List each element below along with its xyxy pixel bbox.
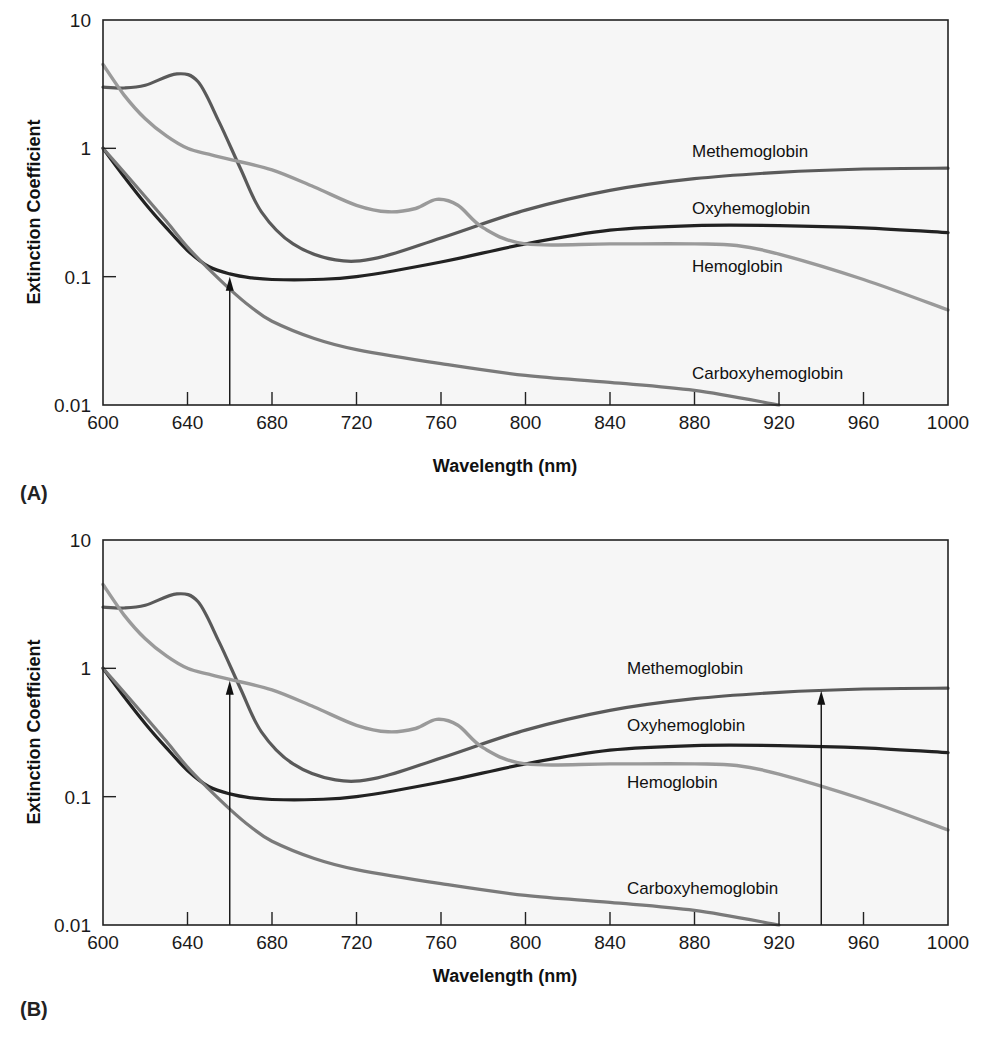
x-tick-label: 760 — [425, 932, 457, 953]
x-axis-title: Wavelength (nm) — [433, 966, 577, 986]
y-axis-title: Extinction Coefficient — [24, 639, 44, 824]
label-hemoglobin: Hemoglobin — [627, 773, 718, 792]
x-tick-label: 720 — [341, 932, 373, 953]
y-tick-label: 10 — [70, 530, 91, 551]
chart-a: 60064068072076080084088092096010000.010.… — [0, 0, 987, 520]
x-tick-label: 800 — [510, 932, 542, 953]
x-tick-label: 840 — [594, 932, 626, 953]
label-oxyhemoglobin: Oxyhemoglobin — [692, 199, 810, 218]
x-tick-label: 760 — [425, 412, 457, 433]
x-tick-label: 1000 — [927, 932, 969, 953]
y-tick-label: 0.01 — [54, 915, 91, 936]
x-tick-label: 880 — [679, 932, 711, 953]
label-hemoglobin: Hemoglobin — [692, 257, 783, 276]
y-tick-label: 0.1 — [65, 787, 91, 808]
label-methemoglobin: Methemoglobin — [627, 659, 743, 678]
x-tick-label: 880 — [679, 412, 711, 433]
x-tick-label: 720 — [341, 412, 373, 433]
x-tick-label: 960 — [848, 412, 880, 433]
label-carboxyhemoglobin: Carboxyhemoglobin — [692, 364, 843, 383]
x-tick-label: 640 — [172, 412, 204, 433]
x-tick-label: 600 — [87, 412, 119, 433]
x-tick-label: 680 — [256, 412, 288, 433]
chart-b: 60064068072076080084088092096010000.010.… — [0, 520, 987, 1045]
x-tick-label: 640 — [172, 932, 204, 953]
y-tick-label: 0.01 — [54, 395, 91, 416]
x-axis-title: Wavelength (nm) — [433, 456, 577, 476]
y-tick-label: 1 — [80, 138, 91, 159]
label-methemoglobin: Methemoglobin — [692, 142, 808, 161]
x-tick-label: 920 — [763, 412, 795, 433]
x-tick-label: 1000 — [927, 412, 969, 433]
x-tick-label: 600 — [87, 932, 119, 953]
panel-b: 60064068072076080084088092096010000.010.… — [0, 520, 987, 1045]
label-oxyhemoglobin: Oxyhemoglobin — [627, 716, 745, 735]
x-tick-label: 960 — [848, 932, 880, 953]
y-axis-title: Extinction Coefficient — [24, 119, 44, 304]
panel-a: 60064068072076080084088092096010000.010.… — [0, 0, 987, 520]
y-tick-label: 0.1 — [65, 267, 91, 288]
x-tick-label: 800 — [510, 412, 542, 433]
panel-letter: (B) — [20, 998, 48, 1020]
y-tick-label: 10 — [70, 10, 91, 31]
label-carboxyhemoglobin: Carboxyhemoglobin — [627, 879, 778, 898]
x-tick-label: 680 — [256, 932, 288, 953]
y-tick-label: 1 — [80, 658, 91, 679]
panel-letter: (A) — [20, 482, 48, 504]
x-tick-label: 840 — [594, 412, 626, 433]
x-tick-label: 920 — [763, 932, 795, 953]
